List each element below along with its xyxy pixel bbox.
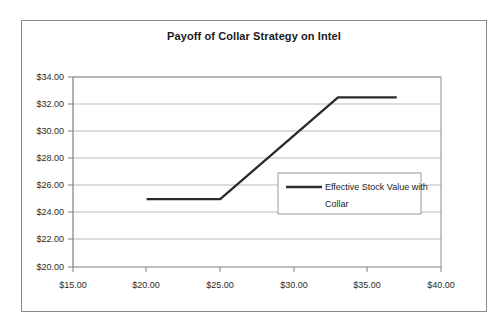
x-tick-label: $25.00	[206, 280, 234, 290]
y-tick-label: $32.00	[36, 99, 64, 109]
y-axis-labels: $34.00 $32.00 $30.00 $28.00 $26.00 $24.0…	[36, 72, 64, 272]
y-tick-label: $22.00	[36, 234, 64, 244]
x-tick-label: $20.00	[132, 280, 160, 290]
y-tick-label: $24.00	[36, 207, 64, 217]
y-axis-ticks	[68, 77, 73, 267]
x-tick-label: $30.00	[280, 280, 308, 290]
x-axis-ticks	[73, 267, 441, 272]
x-tick-label: $15.00	[59, 280, 87, 290]
y-tick-label: $34.00	[36, 72, 64, 82]
legend-box	[278, 173, 421, 214]
x-tick-label: $40.00	[427, 280, 455, 290]
chart-legend[interactable]: Effective Stock Value with Collar	[278, 173, 428, 214]
x-axis-labels: $15.00 $20.00 $25.00 $30.00 $35.00 $40.0…	[59, 280, 455, 290]
gridlines-horizontal	[73, 77, 441, 239]
y-tick-label: $26.00	[36, 180, 64, 190]
chart-container: Payoff of Collar Strategy on Intel	[21, 20, 487, 312]
x-tick-label: $35.00	[353, 280, 381, 290]
chart-plot-area: $34.00 $32.00 $30.00 $28.00 $26.00 $24.0…	[22, 21, 486, 311]
y-tick-label: $30.00	[36, 126, 64, 136]
y-tick-label: $28.00	[36, 153, 64, 163]
legend-label-line2: Collar	[325, 199, 349, 209]
legend-label-line1: Effective Stock Value with	[325, 182, 428, 192]
y-tick-label: $20.00	[36, 262, 64, 272]
